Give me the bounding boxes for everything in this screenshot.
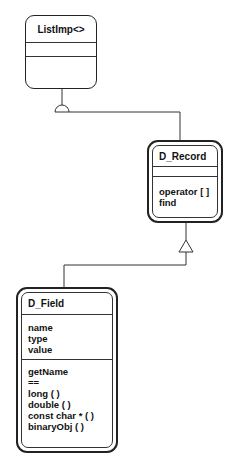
class-name: D_Field	[22, 293, 112, 314]
operation: binaryObj ( )	[28, 421, 106, 432]
operation: find	[159, 197, 211, 208]
attribute: value	[28, 344, 106, 355]
class-d-field[interactable]: D_Field name type value getName == long …	[16, 287, 118, 453]
inheritance-triangle-icon	[179, 240, 193, 252]
operation: double ( )	[28, 399, 106, 410]
class-d-record[interactable]: D_Record operator [ ] find	[147, 140, 223, 223]
interface-semicircle-icon	[55, 105, 69, 112]
attributes-section	[26, 42, 96, 56]
class-name: D_Record	[153, 146, 217, 166]
operation: operator [ ]	[159, 186, 211, 197]
class-name: ListImp<>	[26, 16, 96, 42]
operation: long ( )	[28, 388, 106, 399]
attribute: type	[28, 333, 106, 344]
operations-section: operator [ ] find	[153, 176, 217, 212]
operation: const char * ( )	[28, 410, 106, 421]
operations-section: getName == long ( ) double ( ) const cha…	[22, 359, 112, 436]
class-listimp[interactable]: ListImp<>	[25, 15, 97, 89]
attributes-section	[153, 166, 217, 176]
attributes-section: name type value	[22, 314, 112, 359]
attribute: name	[28, 322, 106, 333]
operations-section	[26, 56, 96, 88]
operation: getName	[28, 366, 106, 377]
operation: ==	[28, 377, 106, 388]
